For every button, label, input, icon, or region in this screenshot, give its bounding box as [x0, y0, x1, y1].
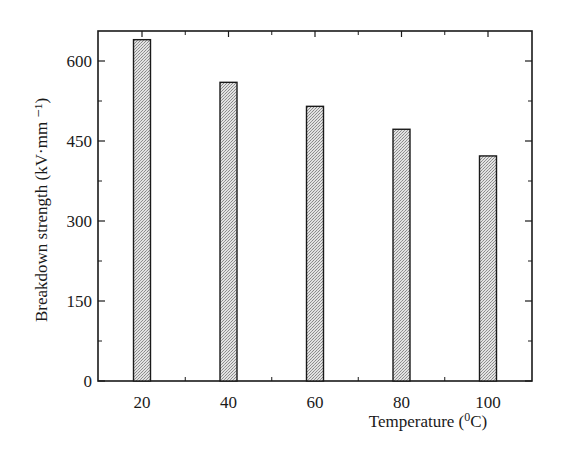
bar-20	[134, 40, 151, 381]
x-tick-label: 100	[475, 393, 501, 412]
y-tick-label: 600	[67, 52, 93, 71]
y-tick-label: 0	[84, 372, 93, 391]
x-tick-label: 20	[134, 393, 151, 412]
bar-80	[393, 129, 410, 381]
bar-60	[307, 106, 324, 381]
x-axis-title: Temperature (0C)	[369, 410, 488, 431]
y-tick-label: 300	[67, 212, 93, 231]
y-tick-label: 150	[67, 292, 93, 311]
bars	[134, 40, 497, 381]
x-tick-label: 80	[393, 393, 410, 412]
x-tick-label: 40	[220, 393, 237, 412]
chart: 0150300450600 20406080100 Breakdown stre…	[0, 0, 561, 450]
bar-40	[220, 82, 237, 381]
x-tick-label: 60	[307, 393, 324, 412]
y-tick-label: 450	[67, 132, 93, 151]
y-axis-title: Breakdown strength (kV·mm ⁻¹)	[32, 98, 51, 322]
bar-100	[480, 156, 497, 381]
